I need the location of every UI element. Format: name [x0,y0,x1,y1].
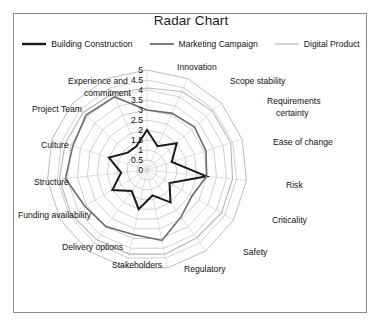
radial-tick-labels: 54.543.532.521.510.50 [131,65,143,175]
radar-spoke [147,79,188,170]
radial-tick-label: 2.5 [131,115,143,125]
radar-axis-label: Risk [286,180,303,190]
legend-label-building-construction: Building Construction [51,40,132,49]
radial-tick-label: 4.5 [131,75,143,85]
radar-axis-label: Structure [34,177,69,187]
radar-axis-label: Requirements [267,96,321,106]
radar-axis-label: Stakeholders [112,260,162,270]
radar-spoke [147,103,221,170]
radial-tick-label: 1 [138,145,143,155]
radar-axis-label: Funding availability [18,210,92,220]
radar-axis-label: Culture [41,140,69,150]
radar-axis-label: certainty [276,108,309,118]
radar-svg: 54.543.532.521.510.50 InnovationScope st… [14,60,340,298]
legend-item-building-construction[interactable]: Building Construction [22,40,132,49]
radar-axis-label: Criticality [272,215,308,225]
legend-swatch-building-construction [22,40,46,48]
legend-label-digital-product: Digital Product [304,40,360,49]
radial-tick-label: 0 [138,165,143,175]
radial-tick-label: 3.5 [131,95,143,105]
legend-item-digital-product[interactable]: Digital Product [275,40,360,49]
radar-axis-labels: InnovationScope stabilityRequirementscer… [18,62,333,274]
legend-swatch-digital-product [275,40,299,48]
chart-legend: Building Construction Marketing Campaign… [0,40,382,49]
radar-axis-label: Scope stability [230,76,286,86]
radial-tick-label: 3 [138,105,143,115]
radar-axis-label: Delivery options [62,242,123,252]
radar-plot: 54.543.532.521.510.50 InnovationScope st… [14,60,340,298]
chart-title: Radar Chart [0,13,382,28]
radar-axis-label: Safety [243,247,268,257]
radar-axis-label: Project Team [32,104,82,114]
radar-axis-label: Innovation [177,62,217,72]
radial-tick-label: 0.5 [131,155,143,165]
radar-axis-label: Experience and [68,76,128,86]
legend-swatch-marketing-campaign [150,40,174,48]
radial-tick-label: 2 [138,125,143,135]
radial-tick-label: 4 [138,85,143,95]
legend-label-marketing-campaign: Marketing Campaign [179,40,258,49]
radial-tick-label: 1.5 [131,135,143,145]
radar-axis-label: Regulatory [184,264,226,274]
radar-axis-label: commitment [84,88,131,98]
radial-tick-label: 5 [138,65,143,75]
radar-axis-label: Ease of change [273,137,333,147]
screenshot-root: Radar Chart Building Construction Market… [0,0,382,334]
legend-item-marketing-campaign[interactable]: Marketing Campaign [150,40,258,49]
